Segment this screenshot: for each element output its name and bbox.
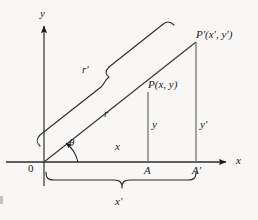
abscissa-x-prime-label: x': [115, 196, 122, 207]
ordinate-y-label: y: [152, 119, 157, 130]
point-p-label: P(x, y): [148, 79, 177, 90]
x-axis-label: x: [236, 155, 241, 166]
foot-a-prime-label: A': [192, 165, 201, 176]
theta-label: θ: [69, 137, 74, 148]
y-axis-label: y: [40, 8, 45, 19]
point-p-prime-label: P'(x', y'): [196, 29, 232, 40]
abscissa-x-label: x: [115, 141, 120, 152]
foot-a-label: A: [144, 165, 151, 176]
radius-r-prime-label: r': [82, 64, 89, 75]
scan-artifact: [0, 196, 3, 204]
origin-label: 0: [28, 163, 34, 174]
brace-x-prime: [46, 172, 196, 188]
ordinate-y-prime-label: y': [200, 119, 207, 130]
radius-r-label: r: [104, 108, 108, 119]
